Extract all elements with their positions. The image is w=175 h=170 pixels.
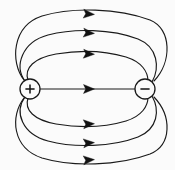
charge-positive: + [20,79,40,99]
charge-negative: − [135,79,155,99]
electric-dipole-figure: +− [0,0,175,170]
dipole-field-diagram: +− [0,0,175,170]
